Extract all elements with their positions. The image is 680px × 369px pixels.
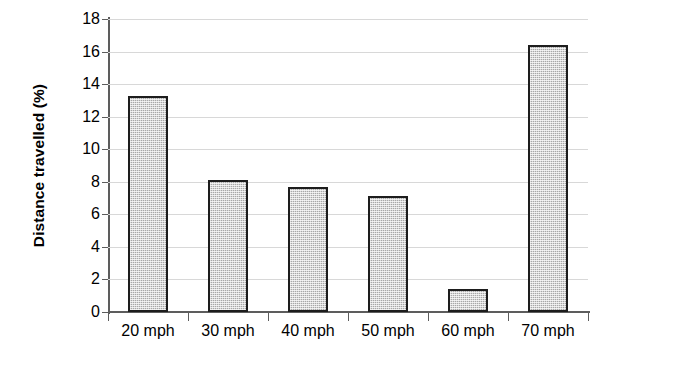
y-axis-tick-mark <box>102 182 108 183</box>
x-axis-tick-mark <box>508 312 509 321</box>
x-axis-tick-mark <box>428 312 429 321</box>
y-axis-tick-label: 2 <box>70 270 100 288</box>
x-axis-category-label: 40 mph <box>268 322 348 340</box>
x-axis-category-label: 20 mph <box>108 322 188 340</box>
gridline-y <box>108 182 588 183</box>
y-axis-tick-label: 10 <box>70 140 100 158</box>
bar <box>528 45 568 312</box>
x-axis-tick-mark <box>588 312 589 321</box>
gridline-y <box>108 52 588 53</box>
y-axis-tick-mark <box>102 19 108 20</box>
x-axis-category-label: 70 mph <box>508 322 588 340</box>
y-axis-title: Distance travelled (%) <box>26 19 52 312</box>
x-axis-tick-mark <box>108 312 109 321</box>
gridline-y <box>108 19 588 20</box>
bar <box>208 180 248 312</box>
bar <box>128 96 168 312</box>
bar-chart: Distance travelled (%) 024681012141618 2… <box>0 0 680 369</box>
gridline-y <box>108 279 588 280</box>
y-axis-tick-label: 14 <box>70 75 100 93</box>
gridline-y <box>108 247 588 248</box>
y-axis-tick-label: 8 <box>70 173 100 191</box>
y-axis-tick-mark <box>102 149 108 150</box>
bar <box>288 187 328 312</box>
y-axis-tick-mark <box>102 279 108 280</box>
y-axis-tick-mark <box>102 117 108 118</box>
x-axis-tick-mark <box>188 312 189 321</box>
x-axis-tick-mark <box>268 312 269 321</box>
y-axis-tick-mark <box>102 84 108 85</box>
y-axis-tick-label: 18 <box>70 10 100 28</box>
y-axis-tick-mark <box>102 214 108 215</box>
gridline-y <box>108 214 588 215</box>
y-axis-tick-label: 4 <box>70 238 100 256</box>
y-axis-tick-labels: 024681012141618 <box>66 19 100 312</box>
x-axis-category-label: 50 mph <box>348 322 428 340</box>
y-axis-tick-label: 6 <box>70 205 100 223</box>
y-axis-tick-mark <box>102 52 108 53</box>
x-axis-category-labels: 20 mph30 mph40 mph50 mph60 mph70 mph <box>108 322 588 348</box>
y-axis-tick-mark <box>102 247 108 248</box>
gridline-y <box>108 84 588 85</box>
gridline-y <box>108 149 588 150</box>
y-axis-tick-label: 16 <box>70 43 100 61</box>
y-axis-tick-label: 12 <box>70 108 100 126</box>
bar <box>368 196 408 312</box>
x-axis-category-label: 60 mph <box>428 322 508 340</box>
x-axis-tick-mark <box>348 312 349 321</box>
x-axis-category-label: 30 mph <box>188 322 268 340</box>
y-axis-tick-label: 0 <box>70 303 100 321</box>
gridline-y <box>108 117 588 118</box>
plot-area <box>108 19 588 312</box>
bar <box>448 289 488 312</box>
